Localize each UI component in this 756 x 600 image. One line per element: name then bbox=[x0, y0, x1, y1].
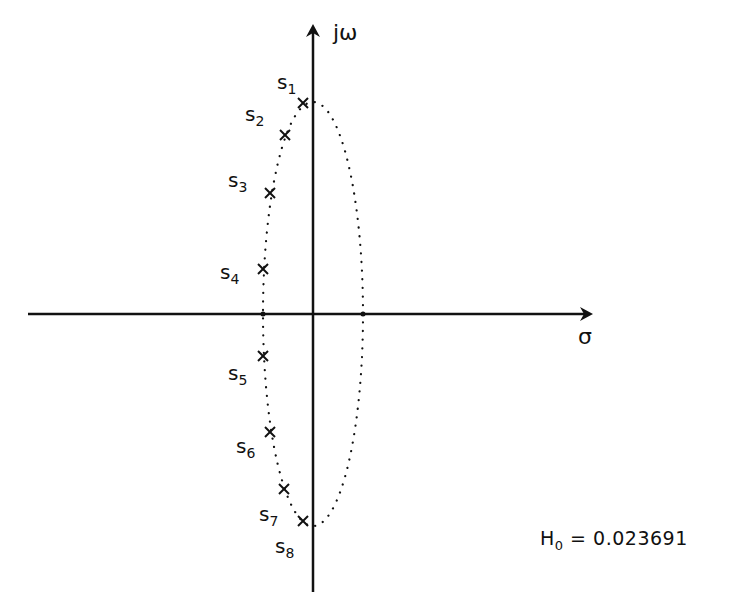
real-intercept-left bbox=[261, 312, 266, 317]
pole-markers bbox=[258, 98, 308, 526]
pole-label-s1: s1 bbox=[277, 72, 296, 96]
gain-value: 0.023691 bbox=[593, 527, 688, 549]
pole-label-s7: s7 bbox=[259, 504, 278, 528]
pole-x-icon bbox=[265, 427, 275, 437]
sigma-axis-label: σ bbox=[578, 326, 592, 348]
pole-x-icon bbox=[258, 264, 268, 274]
jw-axis-label: jω bbox=[333, 22, 358, 44]
gain-readout: H0 = 0.023691 bbox=[540, 527, 688, 553]
pole-label-s5: s5 bbox=[228, 363, 247, 387]
s-plane-diagram bbox=[0, 0, 756, 600]
pole-label-s8: s8 bbox=[275, 536, 294, 560]
real-intercept-right bbox=[361, 312, 366, 317]
pole-label-s3: s3 bbox=[228, 170, 247, 194]
gain-subscript: 0 bbox=[555, 538, 564, 553]
gain-equals: = bbox=[564, 527, 594, 549]
pole-label-s2: s2 bbox=[245, 104, 264, 128]
pole-x-icon bbox=[265, 188, 275, 198]
pole-x-icon bbox=[298, 516, 308, 526]
pole-x-icon bbox=[280, 130, 290, 140]
gain-symbol: H bbox=[540, 527, 555, 549]
pole-x-icon bbox=[279, 484, 289, 494]
pole-label-s4: s4 bbox=[220, 262, 239, 286]
pole-label-s6: s6 bbox=[236, 436, 255, 460]
